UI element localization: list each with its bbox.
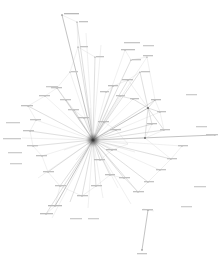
node[interactable] <box>139 71 140 72</box>
node[interactable] <box>76 21 77 22</box>
node[interactable] <box>146 56 147 57</box>
node[interactable] <box>144 137 146 139</box>
node[interactable] <box>61 14 63 16</box>
hub-density-overlay <box>84 131 102 149</box>
node[interactable] <box>77 46 78 47</box>
node[interactable] <box>130 59 131 60</box>
node[interactable] <box>147 107 149 109</box>
node[interactable] <box>141 249 143 251</box>
node[interactable] <box>94 56 95 57</box>
network-graph-canvas <box>0 0 223 262</box>
network-graph-svg <box>0 0 223 262</box>
node[interactable] <box>69 71 70 72</box>
